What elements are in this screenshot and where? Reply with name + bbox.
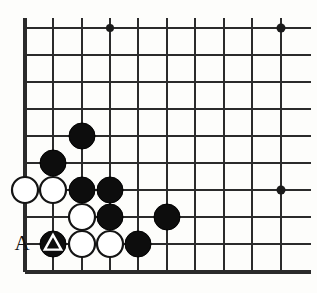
black-stone-disc[interactable] [125,231,151,257]
black-stone-disc[interactable] [97,204,123,230]
stone-black[interactable] [69,177,95,203]
white-stone-disc[interactable] [69,204,95,230]
stone-black[interactable] [69,123,95,149]
coordinate-labels: A [14,231,30,255]
grid-lines [25,18,311,272]
star-point [277,186,286,195]
stone-white[interactable] [69,204,95,230]
go-board-diagram: A [0,0,317,293]
white-stone-disc[interactable] [40,177,66,203]
white-stone-disc[interactable] [97,231,123,257]
stone-white[interactable] [69,231,95,257]
stone-black[interactable] [97,204,123,230]
black-stone-disc[interactable] [40,150,66,176]
black-stone-disc[interactable] [69,177,95,203]
stone-black[interactable] [125,231,151,257]
stone-white[interactable] [12,177,38,203]
stone-black[interactable] [40,150,66,176]
goban-canvas[interactable]: A [0,0,317,293]
board-label-a: A [14,231,30,255]
white-stone-disc[interactable] [69,231,95,257]
stone-white[interactable] [40,177,66,203]
white-stone-disc[interactable] [12,177,38,203]
stone-black[interactable] [154,204,180,230]
black-stone-disc[interactable] [154,204,180,230]
star-point [106,24,114,32]
black-stone-disc[interactable] [97,177,123,203]
star-point [277,24,286,33]
stone-white[interactable] [97,231,123,257]
stone-black[interactable] [40,231,66,257]
stone-black[interactable] [97,177,123,203]
black-stone-disc[interactable] [69,123,95,149]
